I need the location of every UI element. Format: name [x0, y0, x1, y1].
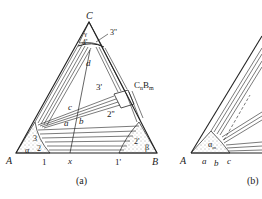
point-a-label: a — [64, 118, 69, 128]
tie-lines-alpha-gamma — [35, 44, 91, 125]
region-2p-label: 2' — [134, 137, 140, 146]
region-3p-label: 3' — [96, 82, 103, 92]
region-1-label: 1 — [42, 157, 47, 167]
region-2pp-label: 2'' — [107, 109, 115, 119]
vertex-b-label: B — [152, 156, 158, 167]
tie-lines-upper-b — [211, 48, 262, 135]
point-d-label: d — [86, 58, 91, 68]
region-2-label: 2 — [37, 144, 41, 153]
point-b-label-b: b — [214, 158, 219, 168]
caption-a: (a) — [76, 175, 87, 187]
gamma-label: γ — [83, 30, 87, 38]
tie-lines-compound-beta — [126, 91, 143, 122]
caption-b: (b) — [247, 175, 259, 187]
point-x-label: x — [67, 156, 72, 166]
compound-region — [114, 90, 134, 108]
vertex-c-label: C — [86, 10, 93, 21]
point-b-label: b — [79, 116, 84, 126]
region-1p-label: 1' — [115, 157, 122, 167]
point-c-label: c — [68, 102, 72, 112]
region-3-label: 3 — [33, 134, 37, 143]
beta-label: β — [145, 143, 149, 152]
point-c-label-b: c — [227, 156, 231, 166]
compound-label: CnBm — [134, 80, 154, 91]
vertex-a-label-b: A — [179, 155, 187, 166]
region-3pp-label: 3'' — [110, 28, 117, 37]
tie-lines-low-b — [226, 142, 262, 151]
vertex-a-label: A — [5, 155, 13, 166]
region-4p-label: 4' — [82, 38, 88, 47]
point-a-label-b: a — [202, 156, 207, 166]
panel-b — [191, 36, 262, 153]
ternary-phase-diagram: C A B γ 4' 3'' d 3' CnBm c 2'' a b 3 α 2… — [0, 0, 262, 199]
